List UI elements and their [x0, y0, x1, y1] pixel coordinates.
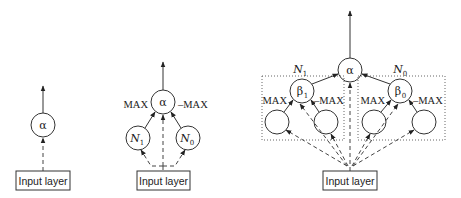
- n0-subscript: 0: [190, 139, 194, 147]
- beta1-subscript: 1: [304, 92, 308, 100]
- n0-label: N: [179, 132, 190, 145]
- n1-neg-max-weight-label: –MAX: [313, 95, 344, 106]
- n1-right-leaf-node: [314, 110, 338, 134]
- n0-group-title: N: [392, 63, 403, 76]
- diagram-hierarchical: α N 1 N 0 β 1 β 0 MAX –MAX MAX –MAX: [262, 11, 445, 190]
- n1-left-leaf-node: [265, 110, 289, 134]
- beta0-label: β: [395, 85, 401, 98]
- n1-max-weight-label: MAX: [262, 95, 287, 106]
- input-to-leaf-dashed-arrow: [286, 130, 347, 166]
- n0-max-weight-label: MAX: [360, 95, 385, 106]
- alpha-label: α: [39, 119, 47, 132]
- max-weight-label: MAX: [123, 99, 148, 110]
- neg-max-weight-label: –MAX: [177, 99, 208, 110]
- n1-label: N: [129, 132, 140, 145]
- diagram-single-node: α Input layer: [16, 86, 70, 190]
- n1-group-title: N: [292, 63, 303, 76]
- input-layer-label: Input layer: [139, 175, 189, 187]
- beta0-subscript: 0: [402, 92, 406, 100]
- n1-group-title-subscript: 1: [303, 70, 307, 78]
- alpha-label: α: [346, 64, 354, 77]
- n0-group-title-subscript: 0: [403, 70, 407, 78]
- input-to-n0-dashed-arrow: [163, 150, 185, 166]
- n1-to-alpha-arrow: [145, 112, 155, 128]
- diagram-two-network: α MAX –MAX N 1 N 0 Input layer: [123, 62, 208, 190]
- input-layer-label: Input layer: [18, 175, 68, 187]
- network-diagram-figure: α Input layer α MAX –MAX N 1 N 0 Input l…: [0, 0, 461, 198]
- input-to-n1-dashed-arrow: [141, 150, 163, 166]
- n1-subscript: 1: [140, 139, 144, 147]
- n0-to-alpha-arrow: [171, 112, 181, 128]
- n0-left-leaf-node: [362, 110, 386, 134]
- input-layer-label: Input layer: [325, 175, 375, 187]
- beta1-label: β: [297, 85, 303, 98]
- n0-neg-max-weight-label: –MAX: [412, 95, 443, 106]
- alpha-label: α: [159, 96, 167, 109]
- n0-right-leaf-node: [412, 110, 436, 134]
- input-to-leaf-dashed-arrow: [353, 130, 414, 166]
